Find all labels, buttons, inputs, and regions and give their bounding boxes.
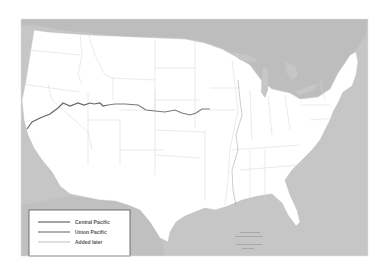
legend-label-added-later: Added later: [75, 239, 103, 245]
legend-label-union-pacific: Union Pacific: [75, 229, 107, 235]
us-map: Central Pacific Union Pacific Added late…: [0, 0, 390, 273]
legend-label-central-pacific: Central Pacific: [75, 219, 110, 225]
legend: Central Pacific Union Pacific Added late…: [29, 210, 130, 256]
